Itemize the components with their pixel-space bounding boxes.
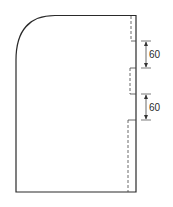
arrowhead-down-icon <box>144 115 148 120</box>
diagram-canvas: 60 60 <box>0 0 173 207</box>
dimension-label-upper: 60 <box>149 50 160 60</box>
dashed-segment-bottom <box>128 120 136 192</box>
dimension-label-lower: 60 <box>149 103 160 113</box>
pattern-outline <box>16 16 136 193</box>
arrowhead-up-icon <box>144 95 148 100</box>
arrowhead-down-icon <box>144 63 148 68</box>
pattern-outline-drawing <box>0 0 173 207</box>
arrowhead-up-icon <box>144 42 148 47</box>
dashed-segment-top <box>131 16 136 41</box>
dashed-segment-middle <box>130 68 136 94</box>
